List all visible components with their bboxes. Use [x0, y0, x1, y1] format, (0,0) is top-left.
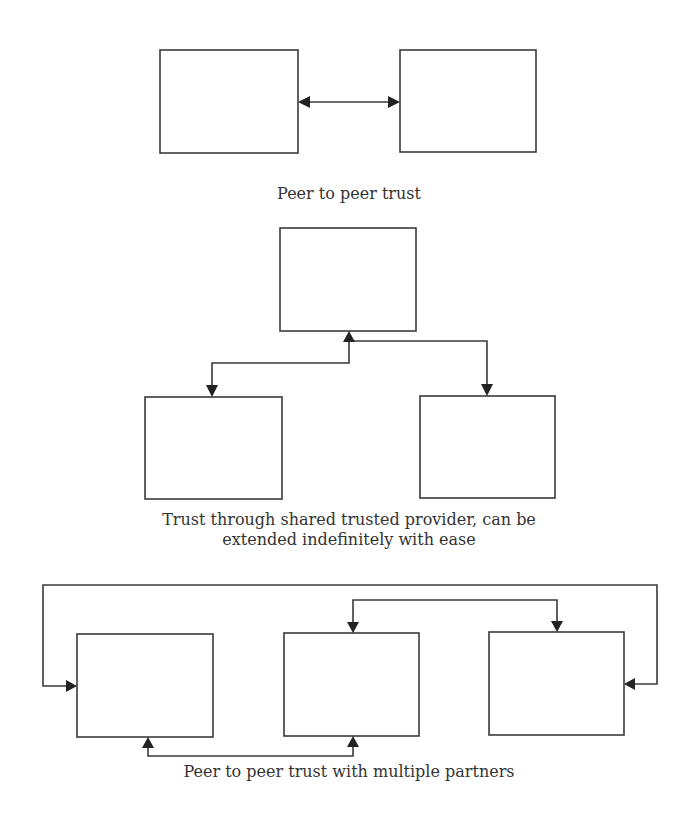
p3-bottom-connector: [142, 736, 359, 756]
arrowhead-left-icon: [298, 96, 310, 108]
caption-multiple-partners: Peer to peer trust with multiple partner…: [0, 762, 698, 782]
arrowhead-down-icon: [551, 621, 563, 632]
caption-shared-provider-line1: Trust through shared trusted provider, c…: [0, 510, 698, 530]
arrowhead-down-icon: [347, 622, 359, 633]
p2-connectors: [206, 331, 493, 397]
p3-c-node: [489, 632, 624, 735]
p3-a-node: [77, 634, 213, 737]
arrowhead-right-icon: [388, 96, 400, 108]
p3-inner-connector: [347, 600, 563, 633]
arrowhead-left-icon: [624, 678, 635, 690]
p1-bidirectional-arrow: [298, 96, 400, 108]
caption-shared-provider-line2: extended indefinitely with ease: [0, 530, 698, 550]
p2-right-node: [420, 396, 555, 498]
p2-provider-node: [280, 228, 416, 331]
arrowhead-up-icon: [347, 736, 359, 747]
arrowhead-down-right-icon: [481, 384, 493, 396]
arrowhead-right-icon: [66, 680, 77, 692]
p3-b-node: [284, 633, 419, 736]
p1-right-node: [400, 50, 536, 152]
p2-left-node: [145, 397, 282, 499]
arrowhead-up-icon: [142, 737, 154, 748]
panel-shared-provider: [145, 228, 555, 499]
panel-peer-to-peer: [160, 50, 536, 153]
trust-models-diagram: [0, 0, 698, 820]
panel-multiple-partners: [43, 585, 657, 756]
p1-left-node: [160, 50, 298, 153]
arrowhead-down-left-icon: [206, 385, 218, 397]
arrowhead-up-icon: [343, 331, 355, 342]
caption-peer-to-peer: Peer to peer trust: [0, 184, 698, 204]
